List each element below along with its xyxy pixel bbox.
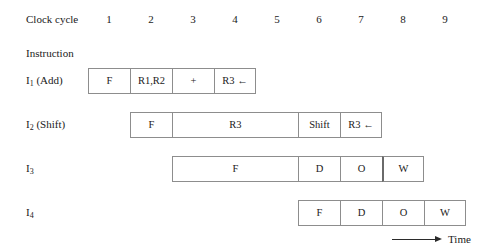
stage-cell-i4-4: W — [424, 200, 466, 226]
stage-cell-i2-4: R3 ← — [340, 112, 382, 138]
stage-cell-i1-4: R3 ← — [214, 68, 256, 94]
stage-cell-i4-3: O — [382, 200, 424, 226]
pipeline-row-i1: FR1,R2+R3 ← — [88, 68, 256, 94]
row-label-i2: I2 (Shift) — [26, 118, 65, 130]
row-label-suffix: (Shift) — [34, 118, 65, 130]
row-label-i1: I1 (Add) — [26, 74, 63, 86]
row-label-i3: I3 — [26, 162, 34, 174]
pipeline-row-i2: FR3ShiftR3 ← — [130, 112, 382, 138]
row-label-index: 2 — [30, 123, 34, 132]
cycle-number-3: 3 — [172, 13, 214, 25]
cycle-number-2: 2 — [130, 13, 172, 25]
stage-cell-i4-1: F — [298, 200, 340, 226]
stage-cell-i2-2: R3 — [172, 112, 298, 138]
stage-cell-i3-4: W — [382, 156, 424, 182]
cycle-number-6: 6 — [298, 13, 340, 25]
right-arrow-icon — [435, 236, 442, 242]
stage-cell-i1-3: + — [172, 68, 214, 94]
stage-cell-i3-3: O — [340, 156, 382, 182]
time-axis: Time — [392, 232, 471, 246]
instruction-axis-label: Instruction — [26, 47, 74, 59]
row-label-index: 4 — [30, 211, 34, 220]
cycle-number-9: 9 — [424, 13, 466, 25]
stage-cell-i1-2: R1,R2 — [130, 68, 172, 94]
cycle-number-5: 5 — [256, 13, 298, 25]
stage-cell-i3-1: F — [172, 156, 298, 182]
stage-cell-i2-1: F — [130, 112, 172, 138]
pipeline-timing-diagram: Clock cycle 123456789 Instruction I1 (Ad… — [0, 0, 486, 252]
stage-cell-i4-2: D — [340, 200, 382, 226]
stage-cell-i2-3: Shift — [298, 112, 340, 138]
time-arrow-line — [392, 239, 436, 240]
cycle-number-scale: 123456789 — [88, 13, 486, 27]
cycle-number-4: 4 — [214, 13, 256, 25]
cycle-number-7: 7 — [340, 13, 382, 25]
stage-cell-i3-2: D — [298, 156, 340, 182]
clock-cycle-axis-label: Clock cycle — [26, 13, 78, 25]
row-label-suffix: (Add) — [34, 74, 63, 86]
pipeline-row-i4: FDOW — [298, 200, 466, 226]
stage-cell-i1-1: F — [88, 68, 130, 94]
row-label-index: 3 — [30, 167, 34, 176]
pipeline-row-i3: FDOW — [172, 156, 424, 182]
cycle-number-8: 8 — [382, 13, 424, 25]
time-axis-label: Time — [448, 233, 471, 245]
cycle-number-1: 1 — [88, 13, 130, 25]
row-label-index: 1 — [30, 79, 34, 88]
row-label-i4: I4 — [26, 206, 34, 218]
